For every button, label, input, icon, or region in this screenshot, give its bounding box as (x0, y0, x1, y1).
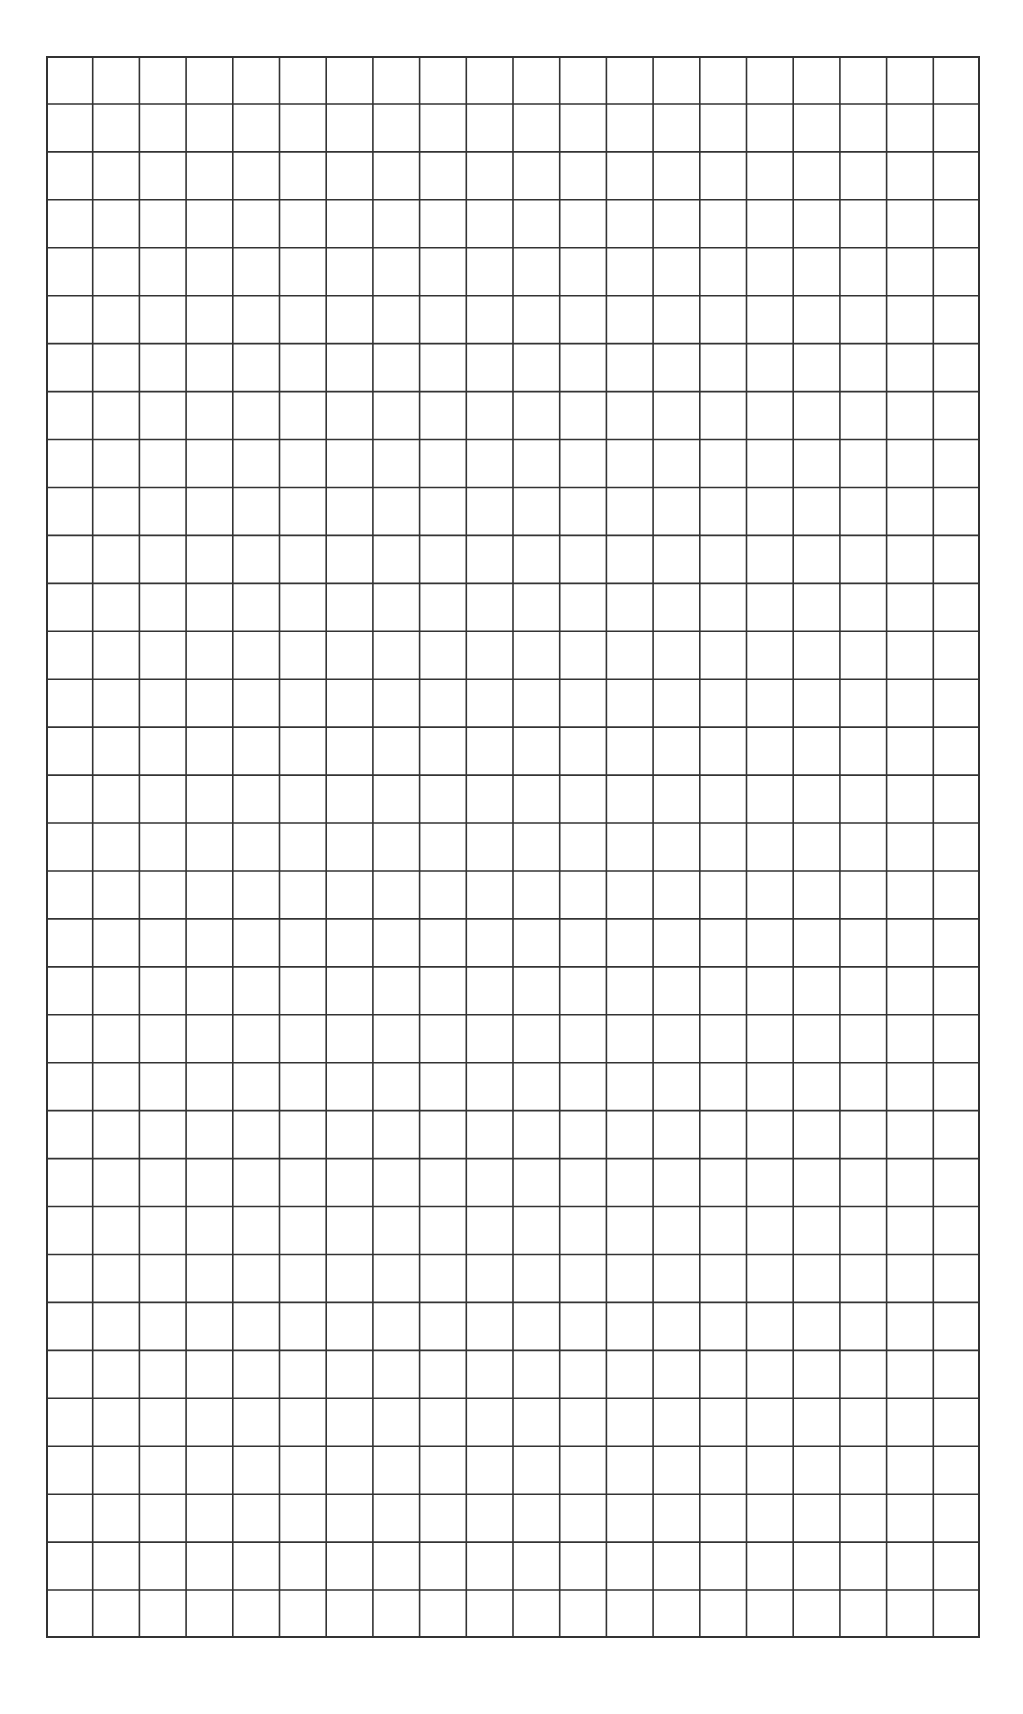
graph-paper-grid (46, 56, 980, 1638)
grid-lines (46, 56, 980, 1638)
